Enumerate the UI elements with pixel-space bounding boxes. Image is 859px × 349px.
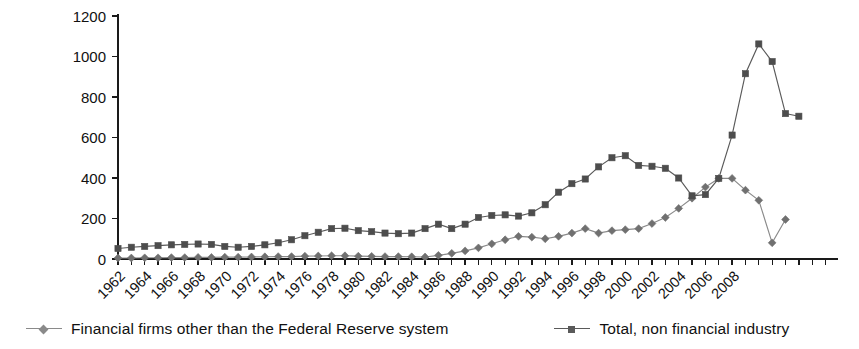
data-point-marker-diamond: [114, 254, 122, 262]
data-point-marker-square: [462, 221, 468, 227]
x-axis-tick-label: 1988: [441, 268, 475, 302]
data-point-marker-diamond: [515, 232, 523, 240]
x-axis-tick-label: 1982: [361, 268, 395, 302]
y-axis-tick-label: 1200: [73, 8, 106, 25]
data-point-marker-diamond: [141, 254, 149, 262]
data-point-marker-diamond: [528, 233, 536, 241]
data-point-marker-diamond: [221, 253, 229, 261]
data-point-marker-diamond: [461, 247, 469, 255]
data-point-marker-square: [382, 230, 388, 236]
data-point-marker-diamond: [541, 235, 549, 243]
x-axis-tick-label: 2004: [655, 268, 689, 302]
data-point-marker-diamond: [181, 254, 189, 262]
data-point-marker-square: [142, 243, 148, 249]
data-point-marker-square: [582, 176, 588, 182]
data-point-marker-square: [542, 202, 548, 208]
data-point-marker-diamond: [581, 225, 589, 233]
data-point-marker-square: [796, 113, 802, 119]
x-axis-tick-label: 1992: [494, 268, 528, 302]
y-axis-tick-label: 0: [98, 251, 106, 268]
chart-container: 0200400600800100012001962196419661968197…: [0, 0, 859, 349]
legend-item-total-non-financial: Total, non financial industry: [554, 320, 789, 338]
x-axis-tick-label: 2006: [681, 268, 715, 302]
data-point-marker-diamond: [475, 244, 483, 252]
data-point-marker-diamond: [154, 254, 162, 262]
y-axis-tick-label: 800: [81, 89, 106, 106]
x-axis-tick-label: 1986: [414, 268, 448, 302]
data-point-marker-diamond: [648, 220, 656, 228]
data-point-marker-square: [329, 226, 335, 232]
data-point-marker-square: [515, 213, 521, 219]
data-point-marker-square: [676, 175, 682, 181]
data-point-marker-square: [475, 214, 481, 220]
data-point-marker-square: [235, 244, 241, 250]
data-point-marker-diamond: [194, 253, 202, 261]
legend-marker-square-icon: [554, 322, 590, 336]
x-axis-tick-label: 1964: [121, 268, 155, 302]
x-axis-tick-label: 2000: [601, 268, 635, 302]
data-point-marker-square: [769, 58, 775, 64]
data-point-marker-square: [155, 243, 161, 249]
x-axis-tick-label: 2008: [708, 268, 742, 302]
data-point-marker-square: [689, 193, 695, 199]
data-point-marker-square: [288, 237, 294, 243]
data-point-marker-square: [168, 242, 174, 248]
legend-item-financial-firms: Financial firms other than the Federal R…: [26, 320, 448, 338]
x-axis-tick-label: 1984: [388, 268, 422, 302]
data-point-marker-square: [609, 155, 615, 161]
data-point-marker-square: [555, 189, 561, 195]
data-point-marker-square: [702, 192, 708, 198]
data-point-marker-square: [449, 226, 455, 232]
data-point-marker-square: [222, 243, 228, 249]
data-point-marker-diamond: [435, 251, 443, 259]
data-point-marker-diamond: [595, 229, 603, 237]
data-point-marker-square: [435, 221, 441, 227]
x-axis-tick-label: 2002: [628, 268, 662, 302]
data-point-marker-square: [355, 228, 361, 234]
data-point-marker-square: [262, 242, 268, 248]
legend-label-total-non-financial: Total, non financial industry: [599, 320, 789, 338]
y-axis-tick-label: 400: [81, 170, 106, 187]
x-axis-tick-label: 1978: [308, 268, 342, 302]
chart-legend: Financial firms other than the Federal R…: [0, 316, 859, 342]
data-point-marker-square: [302, 233, 308, 239]
data-point-marker-diamond: [127, 254, 135, 262]
data-point-marker-diamond: [621, 226, 629, 234]
data-point-marker-square: [782, 111, 788, 117]
data-point-marker-square: [636, 162, 642, 168]
data-point-marker-square: [128, 244, 134, 250]
x-axis-tick-label: 1994: [521, 268, 555, 302]
data-point-marker-diamond: [608, 227, 616, 235]
data-point-marker-diamond: [208, 253, 216, 261]
legend-label-financial-firms: Financial firms other than the Federal R…: [71, 320, 448, 338]
data-point-marker-diamond: [234, 253, 242, 261]
data-point-marker-square: [409, 230, 415, 236]
line-chart-plot: 0200400600800100012001962196419661968197…: [0, 0, 859, 349]
data-point-marker-diamond: [782, 216, 790, 224]
data-point-marker-diamond: [635, 225, 643, 233]
x-axis-tick-label: 1998: [575, 268, 609, 302]
y-axis-tick-label: 600: [81, 129, 106, 146]
data-point-marker-square: [716, 175, 722, 181]
data-point-marker-diamond: [768, 239, 776, 247]
data-point-marker-square: [489, 212, 495, 218]
data-point-marker-square: [502, 212, 508, 218]
data-point-marker-diamond: [661, 214, 669, 222]
data-point-marker-diamond: [168, 254, 176, 262]
legend-marker-diamond-icon: [26, 322, 62, 336]
data-point-marker-diamond: [501, 236, 509, 244]
data-point-marker-square: [662, 165, 668, 171]
x-axis-tick-label: 1990: [468, 268, 502, 302]
x-axis-tick-label: 1968: [174, 268, 208, 302]
y-axis-tick-label: 1000: [73, 48, 106, 65]
data-point-marker-square: [369, 229, 375, 235]
data-point-marker-square: [275, 240, 281, 246]
data-point-marker-square: [649, 163, 655, 169]
data-point-marker-square: [756, 41, 762, 47]
x-axis-tick-label: 1980: [334, 268, 368, 302]
data-point-marker-square: [569, 181, 575, 187]
data-point-marker-square: [742, 71, 748, 77]
data-point-marker-diamond: [448, 249, 456, 257]
series-line-total-non-financial: [118, 44, 799, 249]
data-point-marker-square: [596, 164, 602, 170]
